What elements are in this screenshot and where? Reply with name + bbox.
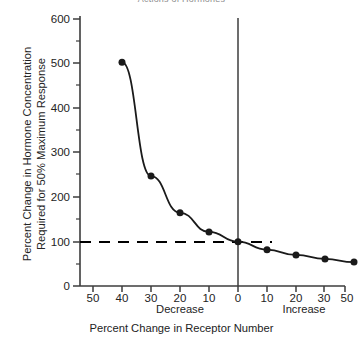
data-point — [235, 238, 242, 245]
figure-container: Actions of Hormones Percent Change in Ho… — [0, 0, 363, 341]
data-point — [119, 59, 126, 66]
x-axis-region-label-decrease: Decrease — [140, 303, 220, 315]
y-tick-label: 200 — [51, 191, 70, 203]
x-tick-label: 40 — [116, 292, 129, 304]
data-point — [177, 209, 184, 216]
data-point — [351, 259, 358, 266]
y-axis-tick-labels: 600 500 400 300 200 100 0 — [51, 13, 70, 292]
y-tick-label: 500 — [51, 57, 70, 69]
y-axis-major-ticks — [73, 19, 80, 286]
data-point — [206, 228, 213, 235]
y-tick-label: 400 — [51, 102, 70, 114]
y-tick-label: 0 — [64, 280, 70, 292]
y-tick-label: 600 — [51, 13, 70, 25]
x-tick-label: 0 — [235, 292, 241, 304]
chart-plot-area: 600 500 400 300 200 100 0 50 40 30 20 10… — [0, 0, 363, 341]
y-tick-label: 300 — [51, 146, 70, 158]
y-tick-label: 100 — [51, 236, 70, 248]
x-axis-region-label-increase: Increase — [264, 303, 344, 315]
x-tick-label: 50 — [87, 292, 100, 304]
x-axis-title: Percent Change in Receptor Number — [0, 322, 363, 334]
data-point — [322, 255, 329, 262]
x-axis-ticks — [93, 286, 345, 292]
data-point — [148, 173, 155, 180]
data-point — [264, 246, 271, 253]
data-point — [293, 251, 300, 258]
